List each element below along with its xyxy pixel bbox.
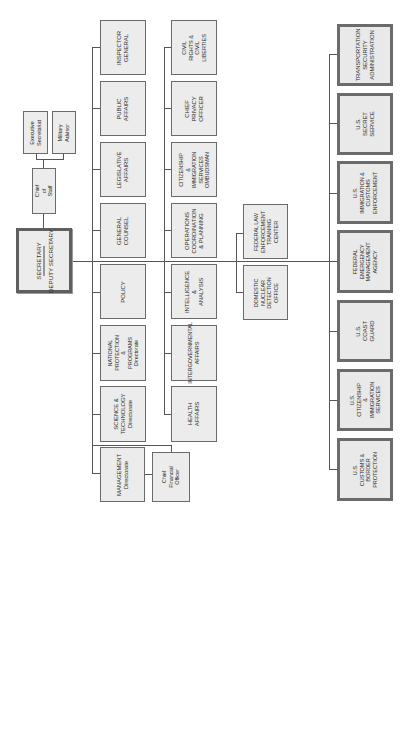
org-label: SCIENCE & TECHNOLOGY Directorate xyxy=(113,393,134,434)
military-advisor-box[interactable]: Military Advisor xyxy=(52,111,76,154)
policy-box[interactable]: POLICY xyxy=(100,264,146,319)
divider xyxy=(44,246,45,276)
executive-secretariat-box[interactable]: Executive Secretariat xyxy=(23,111,48,154)
tsa-box[interactable]: TRANSPORTATION SECURITY ADMINISTRATION xyxy=(337,24,393,86)
org-label: U.S. IMMIGRATION & CUSTOMS ENFORCEMENT xyxy=(352,171,378,213)
health-affairs-box[interactable]: HEALTH AFFAIRS xyxy=(171,386,217,442)
column3-branch xyxy=(236,233,243,234)
chief-of-staff-label: Chief of Staff xyxy=(34,185,54,198)
org-label: OPERATIONS COORDINATION & PLANNING xyxy=(184,208,205,253)
coast-guard-box[interactable]: U.S. COAST GUARD xyxy=(337,300,393,362)
management-box[interactable]: MANAGEMENT Directorate xyxy=(100,447,145,502)
org-label: INSPECTOR GENERAL xyxy=(116,31,130,65)
org-label: FEDERAL EMERGENCY MANAGEMENT AGENCY xyxy=(352,242,378,281)
secretary-label: SECRETARY xyxy=(35,242,42,279)
advisor-mil-link xyxy=(63,154,64,160)
column1-branch xyxy=(92,414,100,415)
column2-branch xyxy=(164,292,171,293)
deputy-secretary-label: DEPUTY SECRETARY xyxy=(47,229,54,293)
operations-coordination-box[interactable]: OPERATIONS COORDINATION & PLANNING xyxy=(171,203,217,258)
column2-branch xyxy=(164,414,171,415)
cfo-bracket-top xyxy=(92,445,172,446)
fletc-box[interactable]: FEDERAL LAW ENFORCEMENT TRAINING CENTER xyxy=(243,204,288,259)
chief-privacy-officer-box[interactable]: CHIEF PRIVACY OFFICER xyxy=(171,81,217,136)
advisors-bracket xyxy=(36,159,64,160)
org-label: NATIONAL PROTECTION & PROGRAMS Directora… xyxy=(107,335,140,371)
column4-branch xyxy=(329,331,337,332)
cbp-box[interactable]: U.S. CUSTOMS & BORDER PROTECTION xyxy=(337,438,393,501)
column2-branch xyxy=(164,47,171,48)
org-label: POLICY xyxy=(120,281,127,302)
org-label: FEDERAL LAW ENFORCEMENT TRAINING CENTER xyxy=(252,210,278,252)
column3-trunk xyxy=(236,233,237,293)
chief-of-staff-box[interactable]: Chief of Staff xyxy=(32,168,56,214)
org-label: CHIEF PRIVACY OFFICER xyxy=(184,96,205,122)
public-affairs-box[interactable]: PUBLIC AFFAIRS xyxy=(100,81,146,136)
civil-rights-box[interactable]: CIVIL RIGHTS & CIVIL LIBERTIES xyxy=(171,20,217,75)
cis-ombudsman-box[interactable]: CITIZENSHIP & IMMIGRATION SERVICES OMBUD… xyxy=(171,142,217,197)
management-cfo-link xyxy=(145,474,152,475)
military-advisor-label: Military Advisor xyxy=(57,124,70,142)
secret-service-box[interactable]: U.S. SECRET SERVICE xyxy=(337,93,393,155)
org-label: DOMESTIC NUCLEAR DETECTION OFFICE xyxy=(252,277,278,308)
column2-branch xyxy=(164,353,171,354)
column1-branch xyxy=(92,292,100,293)
column4-branch xyxy=(329,54,337,55)
org-label: U.S. SECRET SERVICE xyxy=(355,111,376,137)
uscis-box[interactable]: U.S. CITIZENSHIP & IMMIGRATION SERVICES xyxy=(337,369,393,431)
legislative-affairs-box[interactable]: LEGISLATIVE AFFAIRS xyxy=(100,142,146,197)
org-label: MANAGEMENT Directorate xyxy=(116,453,130,495)
org-label: U.S. CUSTOMS & BORDER PROTECTION xyxy=(352,452,378,488)
column1-branch xyxy=(92,473,100,474)
column1-branch xyxy=(92,353,100,354)
org-label: LEGISLATIVE AFFAIRS xyxy=(116,151,130,188)
fema-box[interactable]: FEDERAL EMERGENCY MANAGEMENT AGENCY xyxy=(337,230,393,293)
column4-branch xyxy=(329,400,337,401)
intergovernmental-affairs-box[interactable]: INTERGOVERNMENTAL AFFAIRS xyxy=(171,325,217,381)
column1-trunk xyxy=(92,47,93,473)
column3-branch xyxy=(236,292,243,293)
column2-branch xyxy=(164,108,171,109)
org-label: INTELLIGENCE & ANALYSIS xyxy=(184,270,205,312)
column1-branch xyxy=(92,169,100,170)
org-label: GENERAL COUNSEL xyxy=(116,216,130,244)
column1-branch xyxy=(92,108,100,109)
cfo-box[interactable]: Chief Financial Officer xyxy=(152,452,190,502)
org-label: CIVIL RIGHTS & CIVIL LIBERTIES xyxy=(181,34,207,62)
org-label: PUBLIC AFFAIRS xyxy=(116,96,130,120)
executive-secretariat-label: Executive Secretariat xyxy=(29,120,42,146)
column4-branch xyxy=(329,469,337,470)
org-label: INTERGOVERNMENTAL AFFAIRS xyxy=(187,322,200,384)
ice-box[interactable]: U.S. IMMIGRATION & CUSTOMS ENFORCEMENT xyxy=(337,161,393,224)
main-spine-line xyxy=(72,261,332,262)
secretary-box[interactable]: SECRETARY DEPUTY SECRETARY xyxy=(16,228,72,293)
org-label: CITIZENSHIP & IMMIGRATION SERVICES OMBUD… xyxy=(178,151,211,187)
org-label: HEALTH AFFAIRS xyxy=(187,402,201,426)
advisor-exec-link xyxy=(36,154,37,160)
org-label: TRANSPORTATION SECURITY ADMINISTRATION xyxy=(355,29,376,82)
general-counsel-box[interactable]: GENERAL COUNSEL xyxy=(100,203,146,258)
column4-branch xyxy=(329,123,337,124)
science-technology-box[interactable]: SCIENCE & TECHNOLOGY Directorate xyxy=(100,386,146,442)
column4-branch xyxy=(329,261,337,262)
chief-advisors-link xyxy=(43,159,44,168)
column2-branch xyxy=(164,230,171,231)
org-label: Chief Financial Officer xyxy=(161,466,181,487)
org-label: U.S. COAST GUARD xyxy=(355,319,376,344)
dndo-box[interactable]: DOMESTIC NUCLEAR DETECTION OFFICE xyxy=(243,265,288,320)
column4-branch xyxy=(329,193,337,194)
intelligence-analysis-box[interactable]: INTELLIGENCE & ANALYSIS xyxy=(171,264,217,319)
inspector-general-box[interactable]: INSPECTOR GENERAL xyxy=(100,20,146,75)
secretary-chief-link xyxy=(43,214,44,228)
org-label: U.S. CITIZENSHIP & IMMIGRATION SERVICES xyxy=(349,382,382,418)
nppd-box[interactable]: NATIONAL PROTECTION & PROGRAMS Directora… xyxy=(100,325,146,381)
column2-branch xyxy=(164,169,171,170)
column1-branch xyxy=(92,230,100,231)
column1-branch xyxy=(92,47,100,48)
